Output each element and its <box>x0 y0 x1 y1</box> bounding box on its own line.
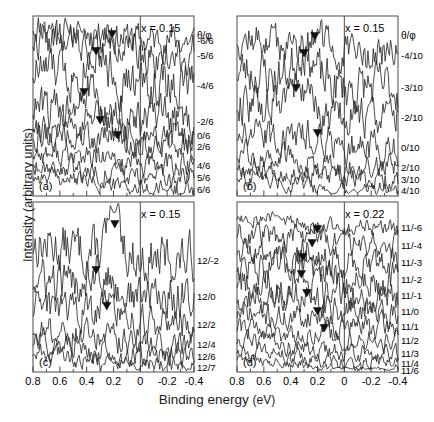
series-label: -3/10 <box>401 83 423 93</box>
series-label: 12/4 <box>197 340 216 350</box>
series-label: 4/10 <box>401 186 420 196</box>
edc-curve <box>237 119 398 171</box>
concentration-label-d: x = 0.22 <box>345 208 384 220</box>
panel-tag-b: (b) <box>243 180 256 192</box>
x-axis-label: Binding energy (eV) <box>0 392 434 407</box>
x-tick-label: 0 <box>125 375 155 387</box>
x-tick-label: 0.6 <box>45 375 75 387</box>
edc-curve <box>33 290 194 344</box>
x-tick-label: 0 <box>329 375 359 387</box>
concentration-label-b: x = 0.15 <box>345 22 384 34</box>
x-tick-label: 0.2 <box>99 375 129 387</box>
series-label: 0/10 <box>401 143 420 153</box>
series-label: 6/6 <box>197 185 210 195</box>
x-tick-label: 0.4 <box>276 375 306 387</box>
series-label: 12/0 <box>197 292 216 302</box>
series-label: -6/6 <box>197 36 214 46</box>
series-label: 11/-3 <box>401 258 422 268</box>
series-label: 12/-2 <box>197 256 219 266</box>
series-label: 11/6 <box>401 366 419 376</box>
series-label: 12/6 <box>197 352 216 362</box>
x-tick-label: -0.2 <box>152 375 182 387</box>
x-tick-label: 0.8 <box>18 375 48 387</box>
series-label: 2/10 <box>401 163 420 173</box>
series-label: 0/6 <box>197 131 210 141</box>
panel-tag-c: (c) <box>39 356 52 368</box>
edc-curves-d <box>237 211 398 370</box>
series-label: 2/6 <box>197 142 210 152</box>
series-label: 11/2 <box>401 336 419 346</box>
x-tick-label: -0.2 <box>356 375 386 387</box>
x-tick-label: 0.8 <box>222 375 252 387</box>
series-label: 4/6 <box>197 161 210 171</box>
x-tick-label: 0.4 <box>72 375 102 387</box>
y-axis-label: Intensity (arbitrary units) <box>21 105 35 285</box>
series-label: 11/-4 <box>401 241 422 251</box>
series-label: 12/2 <box>197 320 216 330</box>
edc-curves-a <box>33 18 194 195</box>
edc-curve <box>237 329 398 362</box>
panel-tag-d: (d) <box>243 356 256 368</box>
series-label: 11/-1 <box>401 291 422 301</box>
concentration-label-a: x = 0.15 <box>141 22 180 34</box>
arpes-figure: Intensity (arbitrary units) Binding ener… <box>0 0 434 422</box>
series-label: 12/7 <box>197 363 216 373</box>
series-label: 11/-6 <box>401 223 422 233</box>
x-axis-label-text: Binding energy <box>159 392 249 407</box>
series-label: 5/6 <box>197 173 210 183</box>
series-label: -5/6 <box>197 51 214 61</box>
x-tick-label: 0.6 <box>249 375 279 387</box>
series-label: -4/10 <box>401 51 423 61</box>
edc-curve <box>237 238 398 279</box>
peak-marker-arrow <box>313 308 321 316</box>
concentration-label-c: x = 0.15 <box>141 208 180 220</box>
series-label: -2/6 <box>197 117 214 127</box>
y-axis-label-wrapper: Intensity (arbitrary units) <box>0 0 1 1</box>
series-label: 11/1 <box>401 322 419 332</box>
series-label: 11/-2 <box>401 275 422 285</box>
series-label: -2/10 <box>401 113 423 123</box>
x-axis-label-unit: (eV) <box>253 393 276 407</box>
x-tick-label: -0.4 <box>383 375 413 387</box>
peak-marker-arrow <box>308 240 316 248</box>
panel-tag-a: (a) <box>39 180 52 192</box>
peak-marker-arrow <box>103 303 111 311</box>
series-label: -4/6 <box>197 81 214 91</box>
peak-marker-arrow <box>111 221 119 229</box>
edc-curves-b <box>237 20 398 195</box>
series-label: 11/0 <box>401 307 419 317</box>
x-tick-label: -0.4 <box>179 375 209 387</box>
x-tick-label: 0.2 <box>303 375 333 387</box>
series-label: 3/10 <box>401 175 420 185</box>
angle-header-b: θ/φ <box>401 31 416 41</box>
edc-curve <box>237 139 398 186</box>
edc-curves-c <box>33 204 194 371</box>
